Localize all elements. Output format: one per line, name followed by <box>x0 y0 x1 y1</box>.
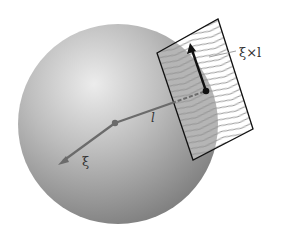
label-xi: ξ <box>82 154 89 169</box>
label-cross-product: ξ×l <box>239 45 261 60</box>
contact-point <box>203 88 210 95</box>
label-l: l <box>151 111 155 125</box>
origin-point <box>112 120 118 126</box>
sphere-diagram: ξ×l l ξ <box>0 0 287 229</box>
